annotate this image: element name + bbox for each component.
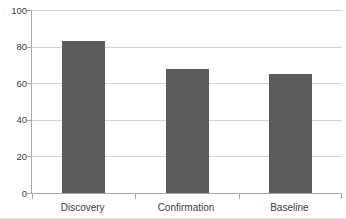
y-axis-label-20: 20: [0, 151, 27, 162]
x-axis-tick: [135, 194, 136, 199]
y-axis-label-60: 60: [0, 78, 27, 89]
y-axis-tick: [27, 47, 32, 48]
bar-baseline: [269, 74, 312, 193]
bar-confirmation: [166, 69, 209, 193]
x-axis-tick: [239, 194, 240, 199]
bar-chart: 020406080100 DiscoveryConfirmationBaseli…: [0, 0, 346, 219]
x-axis-label-baseline: Baseline: [270, 201, 308, 214]
x-axis-label-confirmation: Confirmation: [158, 201, 215, 214]
x-axis-tick: [32, 194, 33, 199]
y-axis-label-80: 80: [0, 41, 27, 52]
x-axis-tick: [341, 194, 342, 199]
y-axis-label-0: 0: [0, 188, 27, 199]
plot-area: [31, 10, 342, 194]
y-axis-tick: [27, 10, 32, 11]
x-axis-label-discovery: Discovery: [61, 201, 105, 214]
y-axis-tick: [27, 83, 32, 84]
gridline-100: [32, 10, 342, 11]
y-axis-tick: [27, 120, 32, 121]
y-axis-label-40: 40: [0, 114, 27, 125]
y-axis-tick: [27, 156, 32, 157]
y-axis-label-100: 100: [0, 5, 27, 16]
bar-discovery: [62, 41, 105, 193]
